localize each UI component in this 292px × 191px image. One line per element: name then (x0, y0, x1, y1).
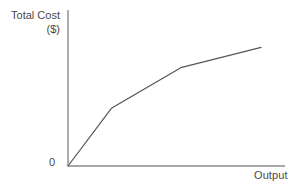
total-cost-curve (68, 47, 261, 166)
cost-curve-chart: Total Cost ($) 0 Output (0, 0, 292, 191)
plot-area (0, 0, 292, 191)
